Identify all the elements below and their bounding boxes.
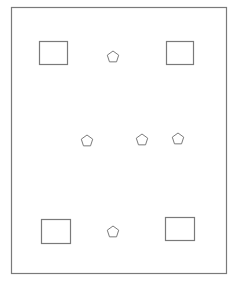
pentagon-mid-right-icon	[172, 133, 183, 144]
floor-plan-diagram	[0, 0, 242, 282]
rect-bottom-right	[166, 218, 195, 241]
pentagon-top-icon	[107, 51, 118, 62]
pentagon-group	[81, 51, 183, 237]
pentagon-mid-left-icon	[81, 135, 92, 146]
rect-top-left	[40, 42, 68, 65]
pentagon-bottom-icon	[107, 226, 118, 237]
rect-top-right	[167, 42, 194, 65]
rectangle-group	[40, 42, 195, 244]
diagram-canvas	[0, 0, 242, 282]
rect-bottom-left	[42, 220, 71, 244]
pentagon-mid-center-icon	[136, 134, 147, 145]
